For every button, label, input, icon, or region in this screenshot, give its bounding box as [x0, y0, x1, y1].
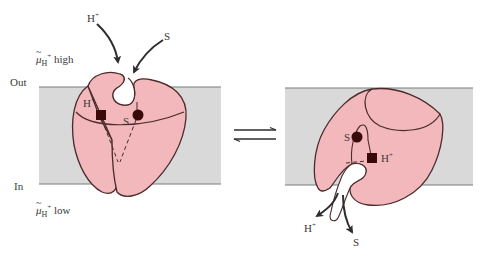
- out-side-label: Out: [10, 76, 27, 88]
- gradient-high-label: ~μH+ high: [36, 52, 74, 68]
- incoming-substrate-label: S: [164, 30, 170, 42]
- substrate-site-marker: [133, 110, 144, 121]
- incoming-proton-label: H+: [87, 11, 99, 24]
- substrate-site-label: S: [123, 115, 129, 127]
- proton-inflow-arrow: [97, 24, 118, 62]
- gradient-low-label: ~μH+ low: [36, 203, 71, 219]
- transporter-diagram: H+ S H+ S S H+ H+ S Out In: [0, 0, 499, 257]
- proton-site-marker-right: [367, 153, 377, 163]
- proton-site-marker: [96, 110, 106, 120]
- in-side-label: In: [14, 180, 24, 192]
- outgoing-proton-label: H+: [304, 221, 316, 234]
- substrate-site-marker-right: [352, 132, 363, 143]
- outgoing-substrate-label: S: [353, 236, 359, 248]
- substrate-inflow-arrow: [134, 40, 163, 72]
- equilibrium-arrows: [234, 128, 276, 142]
- substrate-site-label-right: S: [344, 131, 350, 143]
